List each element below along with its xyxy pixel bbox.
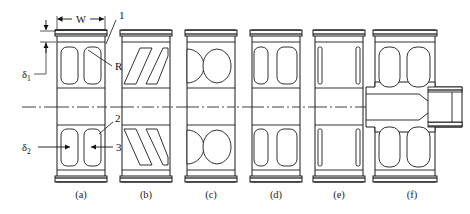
- caption-a: (a): [75, 189, 87, 201]
- figure-a: (a): [55, 30, 107, 201]
- dimension-delta1-label: δ1: [22, 69, 31, 83]
- figure-c: (c): [185, 30, 237, 201]
- callout-1-label: 1: [119, 9, 125, 21]
- dimension-w: W: [57, 14, 105, 29]
- callout-3-label: 3: [116, 141, 122, 153]
- engineering-drawing-figure: (a) (b) (c): [0, 0, 470, 214]
- caption-b: (b): [140, 189, 153, 201]
- caption-c: (c): [205, 189, 217, 201]
- dimension-w-label: W: [76, 14, 86, 25]
- dimension-delta1: δ1: [22, 20, 56, 83]
- drawing-canvas: (a) (b) (c): [0, 0, 470, 214]
- figure-d: (d): [250, 30, 302, 201]
- callout-R-label: R: [115, 60, 123, 72]
- figure-b: (b): [120, 30, 172, 201]
- caption-f: (f): [407, 189, 418, 201]
- caption-e: (e): [333, 189, 345, 201]
- callout-2-label: 2: [115, 112, 121, 124]
- figure-f: (f): [366, 30, 462, 201]
- figure-e: (e): [313, 30, 365, 201]
- caption-d: (d): [270, 189, 283, 201]
- dimension-delta2-label: δ2: [22, 142, 31, 156]
